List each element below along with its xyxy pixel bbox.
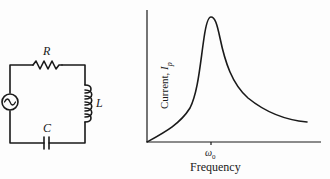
figure: R L C Current, Ip ω0 Frequency — [0, 0, 330, 179]
inductor-icon — [85, 85, 92, 122]
y-axis-label-sub: p — [165, 62, 174, 66]
wire-left — [10, 65, 33, 93]
y-axis-label-text: Current, — [158, 70, 170, 109]
inductor-label: L — [96, 96, 103, 111]
y-axis-label-var: I — [158, 66, 170, 70]
capacitor-label: C — [43, 121, 51, 136]
x-tick-label-omega0: ω0 — [205, 147, 216, 161]
ac-source-icon — [2, 94, 18, 110]
resistor-icon — [33, 61, 62, 69]
y-axis-label: Current, Ip — [158, 46, 173, 126]
wire-top-right — [62, 65, 85, 85]
wire-right-bottom — [49, 122, 85, 143]
x-tick-var: ω — [205, 147, 212, 158]
x-axis-label: Frequency — [190, 160, 241, 175]
wire-bottom-left — [10, 111, 44, 143]
resistor-label: R — [43, 44, 50, 59]
